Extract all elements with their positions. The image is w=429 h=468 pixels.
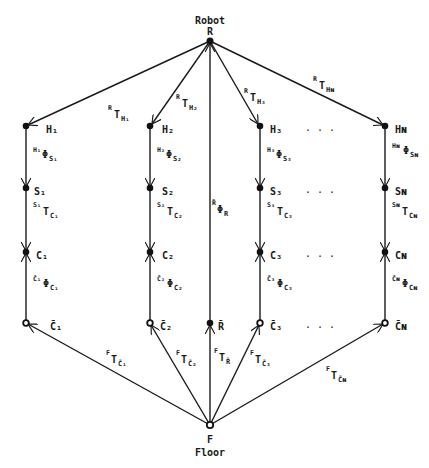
label-C3bar: C̄₃: [270, 320, 282, 332]
label-S2: S₂: [162, 186, 174, 197]
label-ST-2: S₂ T C₂: [157, 201, 182, 220]
label-ST-1: S₁ T C₁: [33, 201, 58, 220]
floor-node-label: F: [207, 434, 213, 445]
ellipsis-H: . . .: [305, 122, 335, 133]
label-S3: S₃: [270, 186, 282, 197]
label-H2: H₂: [162, 124, 174, 135]
edge-R-HN: [210, 41, 383, 125]
label-CPhi-1: C̄₁ Φ C₁: [33, 275, 58, 292]
svg-text:T: T: [167, 206, 173, 217]
svg-text:Cɴ: Cɴ: [409, 284, 417, 292]
svg-text:C̄ɴ: C̄ɴ: [392, 275, 400, 283]
svg-text:Φ: Φ: [403, 145, 409, 156]
svg-text:Φ: Φ: [277, 278, 283, 289]
label-FT-Rbar: F T R̄: [214, 347, 231, 366]
label-RT-HN: R T Hɴ: [313, 75, 334, 94]
label-RPhi: R̄ Φ R: [212, 199, 229, 218]
svg-text:C̄₁: C̄₁: [118, 359, 126, 368]
svg-text:Sɴ: Sɴ: [410, 151, 418, 159]
svg-text:T: T: [182, 98, 188, 109]
svg-text:T: T: [43, 206, 49, 217]
svg-text:C₂: C₂: [174, 212, 182, 220]
node-H1: [23, 123, 30, 130]
svg-text:C̄₂: C̄₂: [188, 359, 196, 368]
svg-text:F: F: [250, 349, 254, 357]
node-C3: [257, 249, 264, 256]
label-FT-CNbar: F T C̄ɴ: [326, 365, 346, 384]
edge-F-C2bar: [151, 325, 210, 425]
node-CNbar: [382, 320, 388, 326]
node-HN: [382, 123, 389, 130]
edge-F-CNbar: [210, 324, 383, 425]
ellipsis-S: . . .: [305, 184, 335, 195]
node-F: [207, 422, 213, 428]
svg-text:F: F: [214, 347, 218, 355]
svg-text:H₁: H₁: [33, 146, 41, 154]
label-CPhi-N: C̄ɴ Φ Cɴ: [392, 275, 417, 292]
svg-text:H₂: H₂: [157, 146, 165, 154]
floor-caption: Floor: [195, 447, 225, 458]
svg-text:T: T: [219, 352, 225, 363]
svg-text:Φ: Φ: [43, 278, 49, 289]
robot-edges: [28, 41, 383, 323]
label-RT-H2: R T H₂: [176, 93, 197, 112]
label-C3: C₃: [270, 250, 282, 261]
svg-text:S₁: S₁: [33, 201, 41, 209]
node-C1bar: [23, 320, 29, 326]
label-H3: H₃: [270, 124, 282, 135]
label-HPhi-1: H₁ Φ S₁: [33, 146, 57, 163]
svg-text:T: T: [114, 109, 120, 120]
svg-text:C₁: C₁: [50, 212, 58, 220]
svg-text:R: R: [176, 93, 180, 101]
svg-text:T: T: [319, 80, 325, 91]
node-S3: [257, 185, 264, 192]
edge-R-H3: [210, 41, 258, 124]
label-FT-C1bar: F T C̄₁: [106, 349, 126, 368]
svg-text:T: T: [111, 354, 117, 365]
svg-text:R: R: [313, 75, 317, 83]
svg-text:T: T: [181, 354, 187, 365]
node-C2bar: [147, 320, 153, 326]
chains: [26, 126, 385, 323]
svg-text:H₁: H₁: [121, 115, 129, 123]
node-S2: [147, 185, 154, 192]
svg-text:F: F: [326, 365, 330, 373]
svg-text:T: T: [402, 206, 408, 217]
svg-text:Φ: Φ: [402, 278, 408, 289]
svg-text:S₂: S₂: [157, 201, 165, 209]
transform-graph: Robot R F Floor H₁ S₁ C₁ C̄₁ H₂ S₂ C₂ C̄…: [0, 0, 429, 468]
node-R: [207, 38, 214, 45]
label-C2bar: C̄₂: [160, 320, 172, 332]
node-H3: [257, 123, 264, 130]
svg-text:Sɴ: Sɴ: [392, 201, 400, 209]
label-CN: Cɴ: [395, 250, 407, 261]
label-FT-C3bar: F T C̄₃: [250, 349, 270, 368]
label-ST-3: S₃ T C₃: [267, 201, 292, 220]
svg-text:R: R: [108, 104, 112, 112]
svg-text:C̄ɴ: C̄ɴ: [338, 375, 346, 384]
svg-text:H₃: H₃: [267, 146, 275, 154]
label-CPhi-3: C̄₃ Φ C₃: [267, 275, 292, 292]
node-C3bar: [257, 320, 263, 326]
label-CPhi-2: C̄₂ Φ C₂: [157, 275, 182, 292]
node-H2: [147, 123, 154, 130]
svg-text:Φ: Φ: [167, 278, 173, 289]
svg-text:S₃: S₃: [267, 201, 275, 209]
node-S1: [23, 185, 30, 192]
svg-text:Hɴ: Hɴ: [392, 142, 400, 150]
svg-text:T: T: [250, 92, 256, 103]
svg-text:H₃: H₃: [257, 98, 265, 106]
svg-text:R: R: [244, 87, 248, 95]
svg-text:R: R: [224, 210, 229, 218]
label-SN: Sɴ: [395, 186, 407, 197]
svg-text:C̄₃: C̄₃: [262, 359, 270, 368]
floor-edges: [28, 324, 383, 425]
svg-text:C₃: C₃: [284, 212, 292, 220]
label-HPhi-2: H₂ Φ S₂: [157, 146, 181, 163]
node-SN: [382, 185, 389, 192]
node-Rbar: [207, 320, 214, 327]
label-RT-H3: R T H₃: [244, 87, 265, 106]
ellipsis-Cbar: . . .: [305, 319, 335, 330]
svg-text:C̄₂: C̄₂: [157, 275, 165, 283]
svg-text:S₂: S₂: [173, 155, 181, 163]
